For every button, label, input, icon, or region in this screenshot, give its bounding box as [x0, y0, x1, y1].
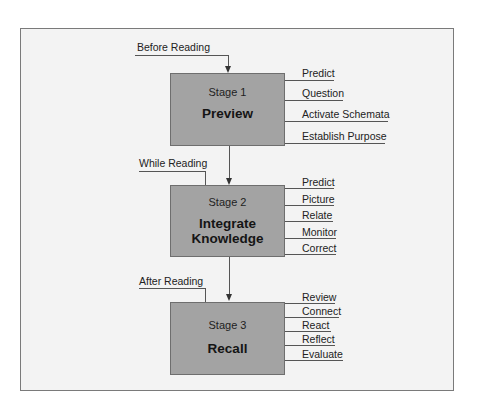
activity-connector [285, 188, 334, 189]
activity-predict: Predict [302, 67, 335, 79]
activity-question: Question [302, 87, 344, 99]
phase-label-while-reading: While Reading [139, 157, 207, 169]
activity-connector [285, 238, 336, 239]
activity-connector [285, 317, 339, 318]
activity-connector [285, 345, 335, 346]
activity-connector [285, 205, 334, 206]
after-reading-connector-drop [205, 288, 206, 302]
activity-connector [285, 303, 335, 304]
stage-2-box: Stage 2 Integrate Knowledge [170, 185, 285, 257]
stage-3-number: Stage 3 [171, 319, 284, 331]
activity-relate: Relate [302, 209, 332, 221]
while-reading-connector-drop [205, 171, 206, 185]
activity-connector [285, 254, 336, 255]
arrow-down-icon [225, 66, 231, 73]
arrow-down-icon [226, 294, 232, 301]
activity-connector [285, 331, 331, 332]
activity-connector [285, 121, 388, 122]
stage-1-title: Preview [171, 106, 284, 121]
stage-3-box: Stage 3 Recall [170, 302, 285, 375]
arrow-down-icon [226, 178, 232, 185]
stage-2-title-line-2: Knowledge [171, 231, 284, 246]
stage-2-to-3-connector [229, 257, 230, 295]
activity-correct: Correct [302, 242, 336, 254]
activity-connector [285, 80, 334, 81]
while-reading-connector [139, 171, 206, 172]
activity-evaluate: Evaluate [302, 348, 343, 360]
activity-connect: Connect [302, 305, 341, 317]
activity-establish-purpose: Establish Purpose [302, 130, 387, 142]
stage-1-box: Stage 1 Preview [170, 73, 285, 146]
activity-review: Review [302, 291, 336, 303]
stage-3-title: Recall [171, 341, 284, 356]
activity-connector [285, 143, 385, 144]
before-reading-connector [135, 55, 228, 56]
phase-label-after-reading: After Reading [139, 275, 203, 287]
activity-connector [285, 360, 343, 361]
activity-activate-schemata: Activate Schemata [302, 108, 390, 120]
stage-1-to-2-connector [229, 146, 230, 179]
stage-2-title-line-1: Integrate [171, 216, 284, 231]
activity-reflect: Reflect [302, 333, 335, 345]
activity-picture: Picture [302, 193, 335, 205]
stage-2-number: Stage 2 [171, 196, 284, 208]
phase-label-before-reading: Before Reading [137, 41, 210, 53]
activity-connector [285, 100, 343, 101]
activity-connector [285, 221, 333, 222]
after-reading-connector [139, 288, 206, 289]
activity-react: React [302, 319, 329, 331]
activity-predict: Predict [302, 176, 335, 188]
stage-1-number: Stage 1 [171, 86, 284, 98]
activity-monitor: Monitor [302, 226, 337, 238]
